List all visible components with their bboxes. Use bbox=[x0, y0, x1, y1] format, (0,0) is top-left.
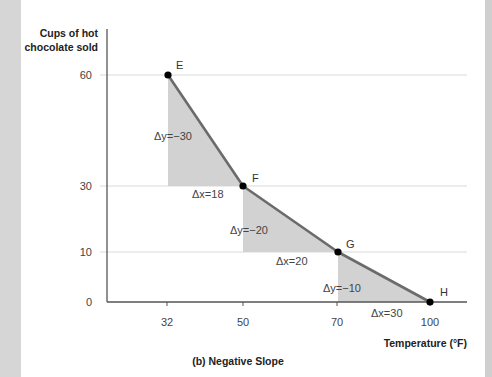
point-f bbox=[239, 182, 246, 189]
y-tick-60: 60 bbox=[80, 69, 92, 81]
dx-e-f: Δx=18 bbox=[192, 188, 224, 200]
point-g bbox=[334, 248, 341, 255]
dy-e-f: Δy=−30 bbox=[154, 130, 192, 142]
x-tick-50: 50 bbox=[237, 316, 249, 328]
chart-svg: 60 30 10 0 32 50 70 100 E F G H Δy=−30 Δ… bbox=[0, 0, 492, 377]
label-h: H bbox=[440, 286, 448, 298]
x-tick-100: 100 bbox=[421, 316, 439, 328]
label-g: G bbox=[346, 238, 355, 250]
y-tick-10: 10 bbox=[80, 246, 92, 258]
y-axis-title-line2: chocolate sold bbox=[24, 41, 98, 53]
x-tick-32: 32 bbox=[161, 316, 173, 328]
y-axis-title-line1: Cups of hot bbox=[40, 27, 99, 39]
y-axis-title: Cups of hot chocolate sold bbox=[24, 27, 98, 53]
y-tick-30: 30 bbox=[80, 180, 92, 192]
label-e: E bbox=[176, 59, 183, 71]
label-f: F bbox=[252, 172, 259, 184]
y-tick-0: 0 bbox=[86, 296, 92, 308]
dx-f-g: Δx=20 bbox=[276, 255, 308, 267]
x-axis-title: Temperature (°F) bbox=[384, 337, 467, 349]
y-tick-labels: 60 30 10 0 bbox=[80, 69, 92, 308]
point-e bbox=[164, 71, 171, 78]
dy-g-h: Δy=−10 bbox=[323, 282, 361, 294]
dx-g-h: Δx=30 bbox=[371, 307, 403, 319]
point-h bbox=[426, 298, 433, 305]
dy-f-g: Δy=−20 bbox=[230, 224, 268, 236]
figure-caption: (b) Negative Slope bbox=[192, 355, 284, 367]
x-tick-70: 70 bbox=[331, 316, 343, 328]
